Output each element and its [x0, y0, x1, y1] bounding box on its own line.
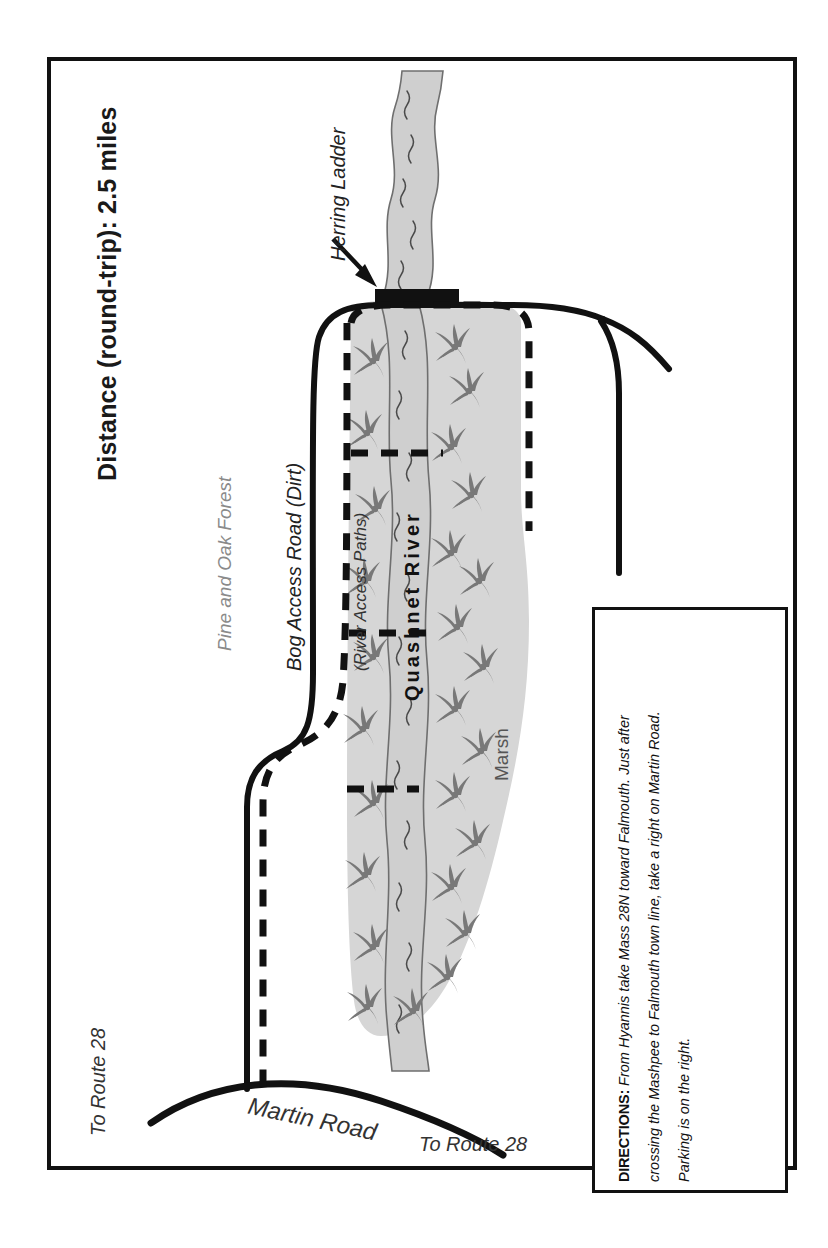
map-frame: Distance (round-trip): 2.5 miles Herring… — [47, 57, 797, 1170]
label-pine-and-oak-forest: Pine and Oak Forest — [214, 477, 236, 651]
page-title: Distance (round-trip): 2.5 miles — [93, 106, 122, 481]
directions-box: DIRECTIONS: From Hyannis take Mass 28N t… — [592, 607, 788, 1193]
directions-text: DIRECTIONS: From Hyannis take Mass 28N t… — [595, 610, 791, 1196]
marsh-area — [347, 301, 529, 1036]
label-bog-access-road: Bog Access Road (Dirt) — [283, 463, 306, 671]
label-quashnet-river: Quashnet River — [401, 511, 424, 701]
directions-line-3: Parking is on the right. — [669, 622, 699, 1182]
map-page: Distance (round-trip): 2.5 miles Herring… — [0, 0, 828, 1248]
label-river-access-paths: (River Access Paths) — [351, 513, 371, 671]
label-to-route-28-left: To Route 28 — [87, 1028, 110, 1136]
directions-heading: DIRECTIONS: — [616, 1090, 632, 1182]
directions-line-2: crossing the Mashpee to Falmouth town li… — [639, 622, 669, 1182]
directions-line-1-text: From Hyannis take Mass 28N toward Falmou… — [616, 715, 632, 1090]
label-marsh: Marsh — [491, 728, 513, 781]
label-to-route-28-bottom: To Route 28 — [419, 1133, 527, 1156]
directions-line-1: DIRECTIONS: From Hyannis take Mass 28N t… — [609, 622, 639, 1182]
label-herring-ladder: Herring Ladder — [327, 128, 350, 261]
